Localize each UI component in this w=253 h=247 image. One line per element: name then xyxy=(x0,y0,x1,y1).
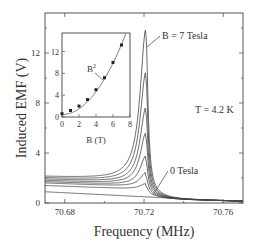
annotation-b7-pointer xyxy=(147,36,160,47)
inset-data-point xyxy=(103,76,106,79)
inset-x-tick-label: 8 xyxy=(128,120,132,129)
y-tick-label: 0 xyxy=(36,198,41,208)
inset-y-tick-label: 8 xyxy=(55,69,59,78)
inset-y-tick-label: 4 xyxy=(55,91,59,100)
inset-x-tick-label: 0 xyxy=(60,120,64,129)
inset-y-tick-label: 0 xyxy=(55,113,59,122)
y-tick-label: 4 xyxy=(36,148,41,158)
y-tick-label: 12 xyxy=(31,48,40,58)
inset-data-point xyxy=(78,105,81,108)
curve-3-tesla xyxy=(45,156,243,201)
inset-frame xyxy=(62,33,130,117)
inset-data-point xyxy=(69,109,72,112)
inset-data-point xyxy=(120,44,123,47)
inset-data-point xyxy=(95,88,98,91)
curve-4-tesla xyxy=(45,133,243,201)
x-tick-label: 70.76 xyxy=(213,207,234,217)
inset-x-label: B (T) xyxy=(86,135,106,145)
curve-5-tesla xyxy=(45,108,243,201)
inset-data-point xyxy=(112,61,115,64)
x-axis-label: Frequency (MHz) xyxy=(94,224,195,240)
inset-x-tick-label: 4 xyxy=(94,120,98,129)
x-tick-label: 70.72 xyxy=(134,207,154,217)
curve-1-tesla xyxy=(45,184,243,201)
y-axis-label: Induced EMF (V) xyxy=(14,58,30,159)
inset-x-tick-label: 6 xyxy=(111,120,115,129)
inset-y-tick-label: 12 xyxy=(51,48,59,57)
annotation-0t: 0 Tesla xyxy=(170,165,199,176)
chart-canvas: 70.6870.7270.7604812 0246804812 Frequenc… xyxy=(0,0,253,247)
annotation-b7: B = 7 Tesla xyxy=(162,30,208,41)
annotation-temperature: T = 4.2 K xyxy=(195,104,235,115)
x-tick-label: 70.68 xyxy=(55,207,76,217)
y-tick-label: 8 xyxy=(36,98,41,108)
inset-data-point xyxy=(86,98,89,101)
inset-x-tick-label: 2 xyxy=(77,120,81,129)
